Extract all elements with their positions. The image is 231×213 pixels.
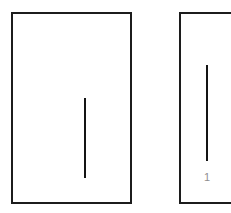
right-panel-label: 1 (202, 172, 212, 183)
left-vertical-line (84, 98, 86, 178)
left-panel (11, 12, 132, 204)
right-vertical-line (206, 65, 208, 161)
figure-canvas: 1 (0, 0, 231, 213)
